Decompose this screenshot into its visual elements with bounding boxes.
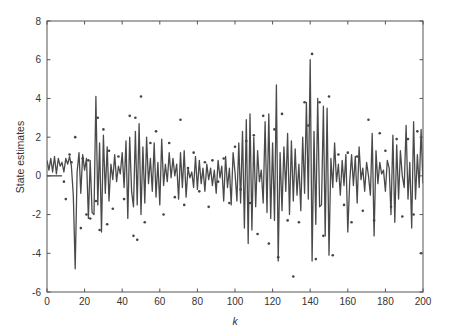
measurement-marker	[337, 153, 340, 156]
measurement-marker	[331, 254, 334, 257]
measurement-marker	[207, 206, 210, 209]
x-tick-label: 20	[79, 296, 91, 307]
measurement-marker	[85, 213, 88, 216]
measurement-marker	[65, 198, 68, 201]
measurement-marker	[322, 235, 325, 238]
measurement-marker	[315, 258, 318, 261]
measurement-marker	[318, 101, 321, 104]
measurement-marker	[102, 128, 105, 131]
x-tick-label: 120	[264, 296, 281, 307]
measurement-marker	[362, 209, 365, 212]
measurement-marker	[311, 53, 314, 56]
x-tick-label: 80	[192, 296, 204, 307]
measurement-marker	[228, 202, 231, 205]
y-tick-label: 4	[35, 93, 41, 104]
measurement-marker	[307, 124, 310, 127]
measurement-marker	[222, 157, 225, 160]
measurement-marker	[106, 223, 109, 226]
measurement-marker	[204, 161, 207, 164]
measurement-marker	[256, 233, 259, 236]
y-tick-label: 6	[35, 54, 41, 65]
measurement-marker	[198, 190, 201, 193]
measurement-marker	[81, 157, 84, 160]
y-axis-label: State estimates	[14, 121, 26, 193]
measurement-marker	[407, 138, 410, 141]
measurement-marker	[286, 219, 289, 222]
measurement-marker	[292, 275, 295, 278]
measurement-marker	[273, 128, 276, 131]
measurement-marker	[74, 136, 77, 139]
measurement-marker	[367, 118, 370, 121]
y-tick-label: -2	[32, 209, 41, 220]
measurement-marker	[168, 142, 171, 145]
estimate-line	[47, 60, 423, 269]
measurement-marker	[192, 151, 195, 154]
measurement-marker	[356, 155, 359, 158]
measurement-marker	[401, 215, 404, 218]
measurement-marker	[343, 204, 346, 207]
measurement-marker	[245, 140, 248, 143]
plot-area	[47, 53, 423, 278]
measurement-marker	[70, 161, 73, 164]
measurement-marker	[63, 180, 66, 183]
x-tick-label: 40	[117, 296, 129, 307]
x-tick-label: 60	[154, 296, 166, 307]
measurement-marker	[174, 196, 177, 199]
measurement-marker	[239, 188, 242, 191]
measurement-marker	[350, 221, 353, 224]
measurement-marker	[136, 238, 139, 241]
measurement-marker	[249, 202, 252, 205]
measurement-marker	[416, 130, 419, 133]
measurement-marker	[234, 146, 237, 149]
measurement-marker	[96, 116, 99, 119]
measurement-marker	[187, 167, 190, 170]
measurement-marker	[162, 213, 165, 216]
measurement-marker	[390, 206, 393, 209]
x-tick-label: 140	[302, 296, 319, 307]
measurement-marker	[68, 153, 71, 156]
measurement-marker	[117, 155, 120, 158]
measurement-marker	[80, 227, 83, 230]
y-tick-label: -6	[32, 287, 41, 298]
measurement-marker	[347, 151, 350, 154]
y-tick-label: -4	[32, 248, 41, 259]
measurement-marker	[328, 95, 331, 98]
measurement-marker	[268, 242, 271, 245]
measurement-marker	[108, 149, 111, 152]
measurement-marker	[303, 101, 306, 104]
x-axis-label: k	[232, 315, 238, 327]
measurement-marker	[277, 256, 280, 259]
measurement-marker	[140, 95, 143, 98]
x-tick-label: 200	[415, 296, 432, 307]
measurement-marker	[384, 149, 387, 152]
measurement-marker	[89, 217, 92, 220]
y-tick-label: 0	[35, 170, 41, 181]
measurement-marker	[253, 134, 256, 137]
measurement-marker	[179, 118, 182, 121]
x-tick-label: 0	[44, 296, 50, 307]
measurement-marker	[132, 235, 135, 238]
measurement-marker	[183, 204, 186, 207]
measurement-marker	[95, 200, 98, 203]
measurement-marker	[123, 198, 126, 201]
measurement-marker	[281, 113, 284, 116]
y-tick-label: 2	[35, 132, 41, 143]
measurement-marker	[298, 221, 301, 224]
measurement-marker	[128, 115, 131, 118]
measurement-marker	[155, 130, 158, 133]
measurement-marker	[112, 207, 115, 210]
measurement-marker	[98, 229, 101, 232]
measurement-marker	[87, 159, 90, 162]
measurement-marker	[262, 115, 265, 118]
x-tick-label: 160	[339, 296, 356, 307]
x-tick-label: 100	[227, 296, 244, 307]
measurement-marker	[211, 159, 214, 162]
measurement-marker	[373, 219, 376, 222]
measurement-marker	[395, 138, 398, 141]
measurement-marker	[143, 221, 146, 224]
measurement-marker	[378, 132, 381, 135]
state-estimates-chart: 020406080100120140160180200-6-4-202468 k…	[0, 0, 451, 335]
y-tick-label: 8	[35, 16, 41, 27]
measurement-marker	[412, 213, 415, 216]
measurement-marker	[149, 142, 152, 145]
